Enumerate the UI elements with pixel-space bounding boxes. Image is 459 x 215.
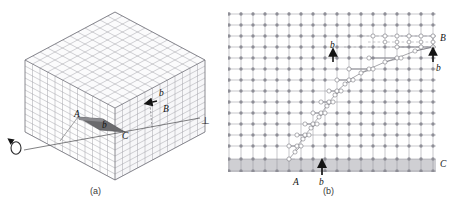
figure-container: ⊥ A b C b B: [0, 0, 459, 215]
label-b-b-top: b: [330, 40, 335, 50]
panel-b-caption: (b): [323, 186, 334, 196]
figure-svg: ⊥ A b C b B: [0, 0, 459, 215]
slipped-region-band: [228, 159, 436, 172]
panel-a-caption: (a): [90, 186, 101, 196]
lattice-rows: [228, 14, 436, 171]
perpendicular-dislocation-icon: ⊥: [201, 115, 210, 126]
label-a-A: A: [73, 109, 80, 119]
label-b-b-right: b: [436, 63, 441, 73]
label-b-A: A: [292, 177, 299, 187]
label-a-b1: b: [102, 120, 107, 130]
panel-b-lattice: [227, 12, 436, 173]
lattice-atoms: [227, 12, 434, 172]
burgers-circuit-loop-icon: [10, 140, 21, 154]
label-a-C: C: [122, 131, 129, 141]
label-b-B: B: [440, 33, 446, 43]
label-a-b2: b: [159, 88, 164, 98]
label-a-B: B: [163, 104, 169, 114]
label-b-C: C: [440, 159, 447, 169]
panel-a-cube: ⊥ A b C b B: [10, 12, 210, 180]
